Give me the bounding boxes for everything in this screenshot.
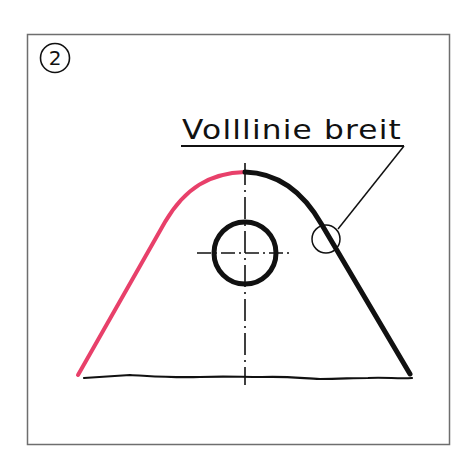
- label-text: Volllinie breit: [182, 114, 402, 145]
- line-type-label: Volllinie breit: [181, 114, 404, 146]
- drawing-frame: [28, 35, 450, 445]
- figure-number-badge: 2: [41, 44, 70, 73]
- badge-number: 2: [49, 46, 62, 70]
- technical-drawing: 2 Volllinie breit: [0, 0, 474, 454]
- base-freehand-line: [84, 375, 412, 379]
- leader-line: [338, 146, 404, 229]
